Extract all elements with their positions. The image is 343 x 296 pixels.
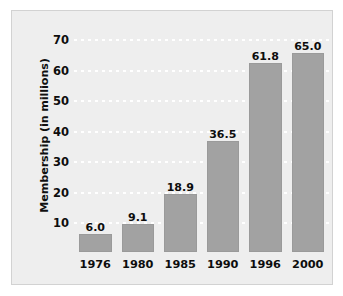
x-axis-tick-label: 1976 [71, 258, 120, 271]
y-axis-tick-label: 40 [43, 125, 69, 139]
bar[interactable] [292, 53, 325, 252]
bar-value-label: 65.0 [287, 40, 330, 53]
y-axis-tick-label: 20 [43, 186, 69, 200]
bar-group: 65.02000 [287, 11, 330, 284]
bar-group: 6.01976 [74, 11, 117, 284]
bar-group: 61.81996 [244, 11, 287, 284]
y-axis-tick-label: 10 [43, 216, 69, 230]
bar-group: 36.51990 [202, 11, 245, 284]
bar[interactable] [164, 194, 197, 252]
bar-value-label: 36.5 [202, 128, 245, 141]
x-axis-tick-label: 1985 [156, 258, 205, 271]
bar-chart: Membership (in millions) 70605040302010 … [0, 0, 343, 296]
bar[interactable] [249, 63, 282, 252]
bar-group: 18.91985 [159, 11, 202, 284]
bar[interactable] [79, 234, 112, 252]
x-axis-tick-label: 1996 [241, 258, 290, 271]
bar[interactable] [122, 224, 155, 252]
bar-value-label: 6.0 [74, 221, 117, 234]
bar-value-label: 61.8 [244, 50, 287, 63]
y-axis-tick-label: 30 [43, 155, 69, 169]
bar[interactable] [207, 141, 240, 253]
x-axis-tick-label: 1980 [114, 258, 163, 271]
y-axis-tick-labels: 70605040302010 [43, 11, 69, 285]
bar-group: 9.11980 [117, 11, 160, 284]
y-axis-tick-label: 70 [43, 33, 69, 47]
plot-area: 6.019769.1198018.9198536.5199061.8199665… [74, 11, 329, 284]
chart-plot-panel: Membership (in millions) 70605040302010 … [11, 10, 333, 285]
bar-value-label: 18.9 [159, 181, 202, 194]
y-axis-tick-label: 60 [43, 64, 69, 78]
y-axis-tick-label: 50 [43, 94, 69, 108]
x-axis-tick-label: 1990 [199, 258, 248, 271]
bar-value-label: 9.1 [117, 211, 160, 224]
x-axis-tick-label: 2000 [284, 258, 333, 271]
